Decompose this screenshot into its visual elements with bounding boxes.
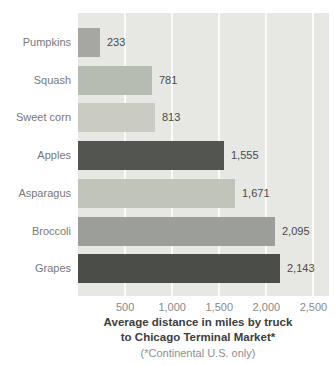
x-tick-label: 500 bbox=[116, 301, 134, 313]
x-tick-label: 2,500 bbox=[300, 301, 328, 313]
value-label: 1,555 bbox=[231, 141, 259, 170]
value-label: 2,143 bbox=[287, 254, 315, 283]
x-tick-label: 2,000 bbox=[253, 301, 281, 313]
category-label: Asparagus bbox=[0, 179, 71, 208]
caption-line-1: Average distance in miles by truck bbox=[64, 315, 332, 330]
x-tick-label: 1,000 bbox=[158, 301, 186, 313]
value-label: 2,095 bbox=[282, 217, 310, 246]
caption-line-2: to Chicago Terminal Market* bbox=[64, 330, 332, 345]
category-label: Pumpkins bbox=[0, 28, 71, 57]
bar bbox=[78, 254, 280, 283]
bar bbox=[78, 217, 275, 246]
category-label: Grapes bbox=[0, 254, 71, 283]
caption-footnote: (*Continental U.S. only) bbox=[64, 346, 332, 360]
value-label: 781 bbox=[159, 66, 177, 95]
category-label: Broccoli bbox=[0, 217, 71, 246]
bar bbox=[78, 179, 235, 208]
bar bbox=[78, 66, 152, 95]
value-label: 1,671 bbox=[242, 179, 270, 208]
chart-caption: Average distance in miles by truck to Ch… bbox=[64, 315, 332, 360]
x-tick-label: 1,500 bbox=[206, 301, 234, 313]
value-label: 813 bbox=[162, 103, 180, 132]
category-label: Apples bbox=[0, 141, 71, 170]
category-label: Sweet corn bbox=[0, 103, 71, 132]
bar bbox=[78, 28, 100, 57]
bar-chart-figure: Pumpkins233Squash781Sweet corn813Apples1… bbox=[0, 0, 335, 365]
bar bbox=[78, 141, 224, 170]
value-label: 233 bbox=[107, 28, 125, 57]
category-label: Squash bbox=[0, 66, 71, 95]
bar bbox=[78, 103, 155, 132]
